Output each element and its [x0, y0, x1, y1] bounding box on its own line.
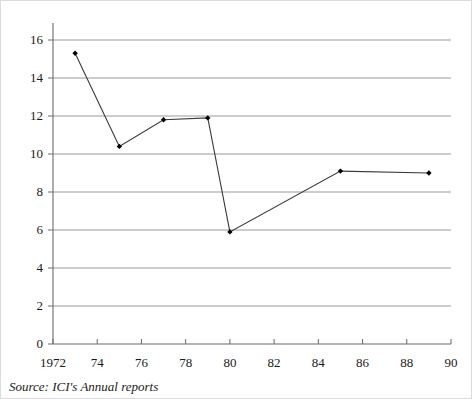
- y-axis-tick-label: 14: [13, 71, 43, 84]
- y-axis-tick-label: 16: [13, 33, 43, 46]
- y-axis-tick-label: 8: [13, 185, 43, 198]
- chart-figure: 0246810121416 1972747678808284868890 Sou…: [0, 0, 472, 399]
- y-axis-tick-label: 4: [13, 261, 43, 274]
- y-axis-tick-label: 6: [13, 223, 43, 236]
- x-axis-tick-label: 84: [296, 356, 340, 369]
- y-axis-tick-label: 0: [13, 337, 43, 350]
- y-axis-ticks: [48, 40, 53, 344]
- data-point-marker: [426, 170, 431, 175]
- line-chart-plot: [1, 1, 472, 399]
- x-axis-ticks: [53, 339, 451, 344]
- data-line: [75, 53, 429, 232]
- data-point-marker: [338, 168, 343, 173]
- source-note: Source: ICI's Annual reports: [9, 379, 158, 395]
- data-point-marker: [161, 117, 166, 122]
- axis-lines: [53, 23, 451, 344]
- y-axis-tick-label: 2: [13, 299, 43, 312]
- x-axis-tick-label: 82: [252, 356, 296, 369]
- y-axis-tick-label: 10: [13, 147, 43, 160]
- x-axis-tick-label: 88: [385, 356, 429, 369]
- x-axis-tick-label: 1972: [31, 356, 75, 369]
- x-axis-tick-label: 74: [75, 356, 119, 369]
- y-axis-tick-label: 12: [13, 109, 43, 122]
- x-axis-tick-label: 78: [164, 356, 208, 369]
- data-point-marker: [72, 51, 77, 56]
- x-axis-tick-label: 80: [208, 356, 252, 369]
- x-axis-tick-label: 76: [119, 356, 163, 369]
- data-point-marker: [117, 144, 122, 149]
- gridlines: [53, 40, 451, 306]
- x-axis-tick-label: 90: [429, 356, 472, 369]
- x-axis-tick-label: 86: [341, 356, 385, 369]
